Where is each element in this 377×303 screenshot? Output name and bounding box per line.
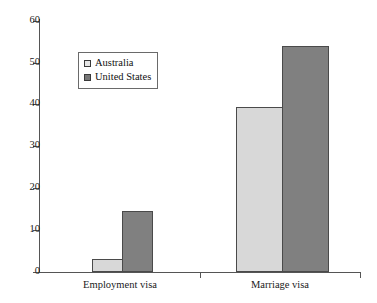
y-tick-label: 60 [12, 15, 40, 26]
legend-item-united-states: United States [84, 70, 151, 84]
y-tick-label: 30 [12, 140, 40, 151]
legend: Australia United States [78, 52, 158, 89]
y-tick-label: 50 [12, 57, 40, 68]
legend-label-australia: Australia [95, 58, 134, 69]
x-axis-label-marriage-visa: Marriage visa [200, 279, 360, 291]
legend-swatch-icon-united-states [84, 74, 91, 81]
y-tick-label: 20 [12, 182, 40, 193]
y-tick-label: 0 [12, 266, 40, 277]
x-tick-mark-2 [360, 272, 361, 278]
y-tick-label: 40 [12, 98, 40, 109]
legend-swatch-icon-australia [84, 60, 91, 67]
bar-united-states-marriage-visa [282, 46, 329, 272]
bar-united-states-employment-visa [122, 211, 153, 272]
bar-chart: 60 50 40 30 20 10 0 Employment visa Marr… [0, 0, 377, 303]
bar-australia-employment-visa [92, 259, 123, 272]
legend-label-united-states: United States [95, 72, 151, 83]
x-axis-label-employment-visa: Employment visa [40, 279, 200, 291]
x-tick-mark-1 [200, 272, 201, 278]
bar-australia-marriage-visa [236, 107, 283, 272]
y-tick-label: 10 [12, 224, 40, 235]
legend-item-australia: Australia [84, 56, 151, 70]
